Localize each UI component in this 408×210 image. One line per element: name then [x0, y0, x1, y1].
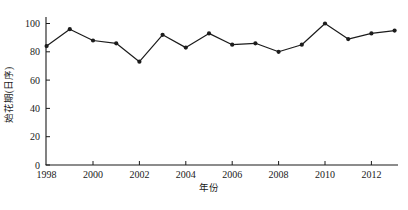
data-series: [45, 21, 397, 63]
data-point-marker: [45, 44, 49, 48]
data-point-marker: [68, 27, 72, 31]
x-tick-label: 2002: [129, 169, 149, 180]
x-tick-label: 2012: [361, 169, 381, 180]
data-point-marker: [137, 60, 141, 64]
data-point-marker: [207, 31, 211, 35]
data-point-marker: [300, 43, 304, 47]
data-point-marker: [253, 41, 257, 45]
y-axis-title: 始花期(日序): [3, 67, 15, 123]
x-tick-label: 2004: [176, 169, 196, 180]
x-axis-ticks: 19982000200220042006200820102012: [37, 161, 382, 180]
x-tick-label: 1998: [37, 169, 57, 180]
y-tick-label: 60: [30, 75, 40, 86]
data-point-marker: [346, 37, 350, 41]
chart-container: 020406080100 199820002002200420062008201…: [0, 0, 408, 210]
data-point-marker: [393, 29, 397, 33]
data-point-marker: [323, 21, 327, 25]
x-tick-label: 2006: [222, 169, 242, 180]
y-tick-label: 80: [30, 46, 40, 57]
flowering-date-line-chart: 020406080100 199820002002200420062008201…: [0, 0, 408, 210]
data-point-marker: [369, 31, 373, 35]
y-tick-label: 100: [25, 18, 40, 29]
data-point-marker: [184, 46, 188, 50]
y-tick-label: 40: [30, 103, 40, 114]
data-point-marker: [114, 41, 118, 45]
x-tick-label: 2000: [83, 169, 103, 180]
series-line: [47, 24, 395, 62]
data-point-marker: [230, 43, 234, 47]
x-tick-label: 2010: [315, 169, 335, 180]
y-tick-label: 20: [30, 131, 40, 142]
x-tick-label: 2008: [269, 169, 289, 180]
data-point-marker: [161, 33, 165, 37]
x-axis-title: 年份: [199, 182, 219, 193]
data-point-marker: [277, 50, 281, 54]
data-point-marker: [91, 38, 95, 42]
